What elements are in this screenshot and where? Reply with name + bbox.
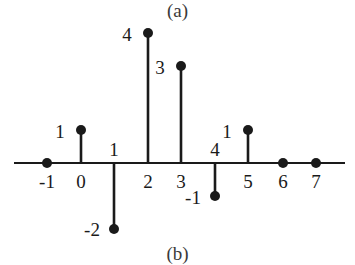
xtick-label-n-1: -1: [31, 172, 63, 191]
xtick-label-n0: 0: [69, 172, 93, 191]
xtick-label-n6: 6: [271, 172, 295, 191]
value-label-n0: 1: [48, 122, 72, 141]
marker-n7: [311, 158, 321, 168]
marker-n6: [278, 158, 288, 168]
value-label-n2: 4: [115, 25, 139, 44]
marker-n1: [109, 224, 119, 234]
value-label-n3: 3: [148, 58, 172, 77]
xtick-label-n2: 2: [136, 172, 160, 191]
xtick-label-n7: 7: [304, 172, 328, 191]
xtick-label-n3: 3: [169, 172, 193, 191]
marker-n-1: [42, 158, 52, 168]
xtick-label-n4: 4: [203, 140, 227, 159]
xtick-label-n5: 5: [236, 172, 260, 191]
marker-n3: [176, 61, 186, 71]
marker-n5: [243, 125, 253, 135]
xtick-label-n1: 1: [102, 140, 126, 159]
marker-n0: [76, 125, 86, 135]
marker-n2: [143, 28, 153, 38]
figure-caption-bottom: (b): [0, 243, 355, 265]
value-label-n1: -2: [76, 220, 108, 239]
marker-n4: [210, 191, 220, 201]
